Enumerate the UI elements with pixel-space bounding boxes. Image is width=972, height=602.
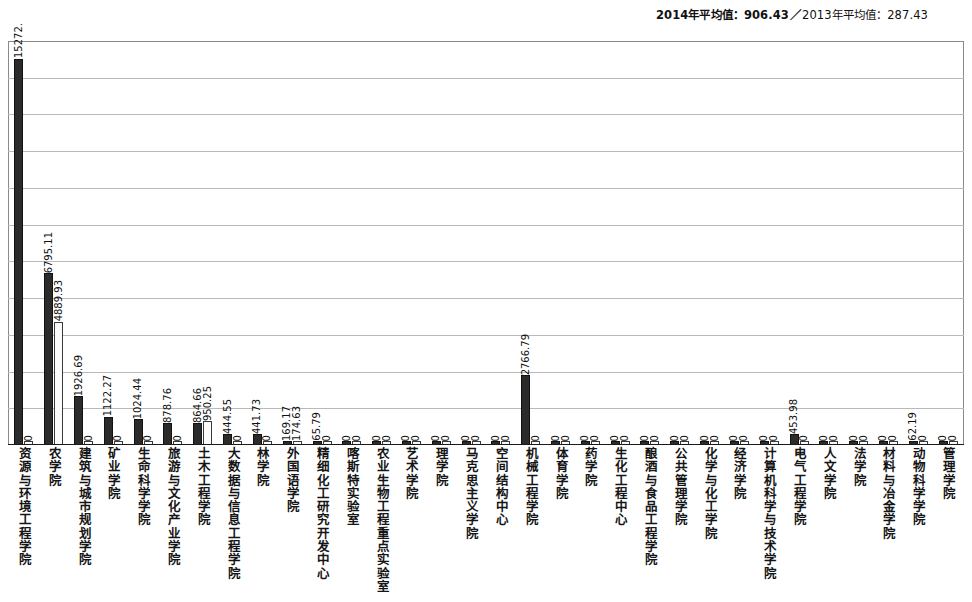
x-axis-label-text: 电气工程学院 (793, 447, 806, 527)
x-axis-label-text: 建筑与城市规划学院 (77, 447, 90, 567)
bar-value-label: 0 (24, 435, 34, 441)
x-axis-label-text: 大数据与信息工程学院 (226, 447, 239, 580)
x-axis-label: 喀斯特实验室 (337, 447, 367, 602)
bar-group: 441.730 (248, 41, 278, 445)
x-axis-label-text: 林学院 (256, 447, 269, 487)
bar-value-label: 0 (352, 435, 362, 441)
x-axis-label-text: 马克思主义学院 (465, 447, 478, 540)
bar-value-label: 1024.44 (133, 378, 143, 419)
bar-value-label: 174.63 (292, 406, 302, 441)
bar-group: 15272.0 (9, 41, 39, 445)
bar-value-label: 0 (441, 435, 451, 441)
bar-group: 453.980 (784, 41, 814, 445)
x-axis-label: 计算机科学与技术学院 (754, 447, 784, 602)
bar-group: 1024.440 (128, 41, 158, 445)
x-axis-label-text: 艺术学院 (405, 447, 418, 500)
bar-chart: 15272.06795.114889.931926.6901122.270102… (8, 41, 964, 445)
bar-group: 00 (367, 41, 397, 445)
x-axis-label-text: 外国语学院 (286, 447, 299, 514)
x-axis-line (8, 444, 964, 446)
x-axis-label-text: 农业生物工程重点实验室 (375, 447, 388, 593)
bar-value-label: 0 (382, 435, 392, 441)
bar-value-label: 0 (471, 435, 481, 441)
bar-group: 864.66950.25 (188, 41, 218, 445)
bar-value-label: 0 (620, 435, 630, 441)
bar-group: 00 (665, 41, 695, 445)
bar-group: 00 (933, 41, 963, 445)
x-axis-label-text: 化学与化工学院 (703, 447, 716, 540)
bar-value-label: 950.25 (203, 386, 213, 421)
x-axis-label-text: 生化工程中心 (614, 447, 627, 527)
x-axis-label-text: 管理学院 (942, 447, 955, 500)
bar-group: 00 (546, 41, 576, 445)
bar-value-label: 0 (888, 435, 898, 441)
bar-value-label: 0 (739, 435, 749, 441)
bar: 950.25 (203, 421, 212, 445)
x-axis-label-text: 机械工程学院 (524, 447, 537, 527)
x-axis-label-text: 体育学院 (554, 447, 567, 500)
bar-group: 00 (426, 41, 456, 445)
bar-group: 1926.690 (69, 41, 99, 445)
bar-value-label: 2766.79 (521, 334, 531, 375)
bar-group: 00 (605, 41, 635, 445)
bar-value-label: 0 (918, 435, 928, 441)
x-axis-labels: 资源与环境工程学院农学院建筑与城市规划学院矿业学院生命科学学院旅游与文化产业学院… (8, 447, 964, 602)
x-axis-label-text: 计算机科学与技术学院 (763, 447, 776, 580)
x-axis-label-text: 经济学院 (733, 447, 746, 500)
x-axis-label: 林学院 (248, 447, 278, 602)
bar-group: 6795.114889.93 (39, 41, 69, 445)
x-axis-label: 药学院 (575, 447, 605, 602)
x-axis-label-text: 旅游与文化产业学院 (166, 447, 179, 567)
bar-value-label: 0 (113, 435, 123, 441)
bar-group: 00 (695, 41, 725, 445)
x-axis-label-text: 理学院 (435, 447, 448, 487)
bar-group: 00 (814, 41, 844, 445)
bar-value-label: 0 (590, 435, 600, 441)
bar-value-label: 0 (262, 435, 272, 441)
bar: 864.66 (193, 423, 202, 445)
bar: 15272. (14, 59, 23, 445)
bar-group: 62.190 (903, 41, 933, 445)
bar-value-label: 6795.11 (44, 232, 54, 273)
x-axis-label: 矿业学院 (98, 447, 128, 602)
bar-group: 878.760 (158, 41, 188, 445)
bar-value-label: 0 (531, 435, 541, 441)
bar-value-label: 0 (233, 435, 243, 441)
chart-header: 2014年平均值：906.43／2013年平均值：287.43 (0, 0, 972, 28)
bar-value-label: 0 (829, 435, 839, 441)
x-axis-label: 管理学院 (933, 447, 963, 602)
bar-group: 1122.270 (98, 41, 128, 445)
bar-group: 2766.790 (516, 41, 546, 445)
x-axis-label: 材料与冶金学院 (874, 447, 904, 602)
bar-groups: 15272.06795.114889.931926.6901122.270102… (8, 41, 964, 445)
x-axis-label-text: 矿业学院 (107, 447, 120, 500)
bar-group: 00 (456, 41, 486, 445)
x-axis-label: 化学与化工学院 (695, 447, 725, 602)
x-axis-label: 法学院 (844, 447, 874, 602)
x-axis-label: 生化工程中心 (605, 447, 635, 602)
bar-value-label: 4889.93 (54, 280, 64, 321)
bar-value-label: 0 (769, 435, 779, 441)
bar-group: 00 (575, 41, 605, 445)
bar-value-label: 0 (322, 435, 332, 441)
bar-value-label: 15272. (14, 23, 24, 58)
x-axis-label: 动物科学学院 (903, 447, 933, 602)
x-axis-label: 农学院 (39, 447, 69, 602)
bar-value-label: 0 (799, 435, 809, 441)
x-axis-label: 人文学院 (814, 447, 844, 602)
x-axis-label-text: 资源与环境工程学院 (17, 447, 30, 567)
x-axis-label: 电气工程学院 (784, 447, 814, 602)
x-axis-label-text: 法学院 (852, 447, 865, 487)
bar-value-label: 453.98 (789, 399, 799, 434)
bar-value-label: 0 (859, 435, 869, 441)
bar-value-label: 444.55 (223, 399, 233, 434)
bar-group: 444.550 (218, 41, 248, 445)
bar-value-label: 0 (411, 435, 421, 441)
x-axis-label-text: 空间结构中心 (494, 447, 507, 527)
x-axis-label: 精细化工研究开发中心 (307, 447, 337, 602)
bar-group: 00 (844, 41, 874, 445)
x-axis-label: 资源与环境工程学院 (9, 447, 39, 602)
x-axis-label-text: 动物科学学院 (912, 447, 925, 527)
x-axis-label-text: 精细化工研究开发中心 (316, 447, 329, 580)
average-2014-label: 2014年平均值：906.43 (656, 8, 789, 22)
